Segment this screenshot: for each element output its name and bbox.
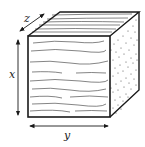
right-face <box>110 12 139 117</box>
wood-block-diagram: x y z <box>0 0 145 147</box>
front-face <box>30 41 108 112</box>
z-axis-label: z <box>24 13 30 24</box>
block-drawing <box>0 0 145 147</box>
x-axis-label: x <box>9 69 15 80</box>
y-axis-label: y <box>64 130 70 141</box>
